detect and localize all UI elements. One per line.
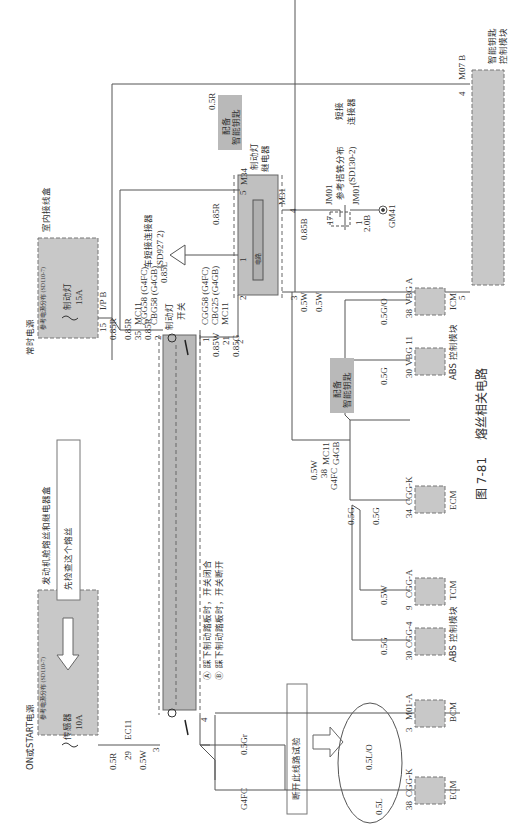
engine-box-label: 发动机舱熔丝和继电器盒 xyxy=(42,486,51,585)
constant-power-ref: 参考电源分布 (SD110-7) xyxy=(40,267,46,330)
wire-0.85g: 0.85G xyxy=(232,335,241,357)
wire-2.0b: 2.0B xyxy=(363,215,372,232)
load-0-pin: 38 xyxy=(405,309,414,318)
option-badge-1-line2: 智能钥匙 xyxy=(232,109,241,145)
wire-0.5l-o: 0.5L/O xyxy=(365,744,374,770)
note-a: Ⓐ 踩下制动踏板时，开关闭合 xyxy=(203,560,212,680)
option-badge-1-line1: 配备 xyxy=(222,117,231,135)
constant-power-label: 常时电源 xyxy=(26,319,35,355)
load-1-module: ABS 控制模块 xyxy=(449,324,458,380)
wire-0.5g-abs: 0.5G xyxy=(380,637,389,655)
load-4-pin: 30 xyxy=(405,651,414,660)
pin-switch-4: 4 xyxy=(200,718,209,723)
ground-dist-ref: (SD130-2) xyxy=(348,147,357,186)
pin-mc11-38: 38 xyxy=(320,469,329,478)
pin-relay-3: 3 xyxy=(290,296,299,301)
module-tcm xyxy=(415,578,445,605)
connector-cgg58-b-3: MC11 xyxy=(221,302,230,325)
module-icm xyxy=(415,288,445,315)
smart-key-module xyxy=(158,70,190,210)
fuse-brake-name: 制动灯 xyxy=(63,283,72,310)
load-4-module: ABS 控制模块 xyxy=(449,606,458,662)
ground-type-2: 连接器 xyxy=(347,98,356,125)
pin-cgg58-b-1: 1 xyxy=(202,338,211,343)
wire-0.85w: 0.85W xyxy=(212,333,221,357)
wire-0.5g-o: 0.5G/O xyxy=(380,298,389,325)
wire-0.5w-1: 0.5W xyxy=(300,292,309,312)
module-abs-1 xyxy=(415,348,445,375)
brake-switch-label-2: 开关 xyxy=(177,302,186,320)
load-5-connector: M01-A xyxy=(405,694,414,721)
wire-0.85r-1: 0.85R xyxy=(109,318,118,340)
load-6-connector: CGG-K xyxy=(405,769,414,798)
connector-m34: M34 xyxy=(240,168,249,185)
ground-dist-label: 参考搭铁分布 xyxy=(336,146,345,200)
wire-0.5g-b: 0.5G xyxy=(372,507,381,525)
load-1-pin: 30 xyxy=(405,369,414,378)
pin-m34-2: 2 xyxy=(239,296,248,301)
pin-switch-3: 3 xyxy=(152,748,161,753)
fuse-icon xyxy=(62,743,78,747)
brake-switch-label-1: 制动灯 xyxy=(165,303,174,330)
module-bcm xyxy=(415,700,445,727)
wire-0.5g-vbg: 0.5G xyxy=(380,367,389,385)
wire-0.5w-2: 0.5W xyxy=(315,292,324,312)
wire-0.5gr: 0.5Gr xyxy=(240,734,249,755)
option-badge-2-line1: 配备 xyxy=(333,380,342,398)
smart-key-module-line1: 智能钥匙 xyxy=(488,28,497,64)
short-connector-triangle-icon xyxy=(170,245,185,265)
wire-0.85l: 0.85L xyxy=(160,262,169,283)
wire-0.5r-ec: 0.5R xyxy=(109,753,118,770)
load-4-connector: CGG-4 xyxy=(405,622,414,649)
pin-m07b-5: 5 xyxy=(458,296,467,301)
brake-relay-label-1: 制动灯 xyxy=(250,143,259,170)
load-3-pin: 9 xyxy=(405,606,414,611)
connector-cgg58-b-2: CBG25 (G4GB) xyxy=(211,266,220,325)
smart-key-module-line2: 控制模块 xyxy=(499,28,508,64)
load-2-connector: CGG-K xyxy=(405,477,414,506)
module-ecm-2 xyxy=(415,777,445,804)
variant-g4fc: G4FC xyxy=(330,468,339,490)
wire-0.5l: 0.5L xyxy=(375,798,384,815)
connector-m31: M31 xyxy=(278,188,287,205)
load-3-connector: CGG-A xyxy=(405,570,414,599)
load-2-pin: 34 xyxy=(405,509,414,518)
connector-ip-b: I/P B xyxy=(99,292,108,310)
load-5-pin: 3 xyxy=(405,728,414,733)
pin-m07b-4: 4 xyxy=(458,92,467,97)
connector-jm01-b: JM01 xyxy=(352,184,361,205)
pin-cgg58-b-2: 2 xyxy=(236,340,245,345)
fuse-sensor-rating: 10A xyxy=(75,715,84,731)
pin-m34-5: 5 xyxy=(239,191,248,196)
pin-ip-b: 15 xyxy=(99,323,108,332)
smart-key-control-module xyxy=(472,70,504,285)
pin-cgg58-a: 2 xyxy=(154,336,163,341)
wire-0.5w-tcm: 0.5W xyxy=(380,585,389,605)
pin-ec11: 29 xyxy=(124,751,133,760)
connector-jm01-a: JM01 xyxy=(325,184,334,205)
connector-ec11: EC11 xyxy=(124,720,133,740)
load-5-module: BCM xyxy=(449,702,458,722)
pin-m31: 4 xyxy=(289,209,298,214)
relay-inner-label: 电路 xyxy=(255,253,261,265)
pin-cgg58-b-21: 21 xyxy=(222,336,231,345)
module-abs-2 xyxy=(415,628,445,655)
brake-switch-bar xyxy=(163,335,196,710)
load-6-pin: 38 xyxy=(405,801,414,810)
pin-jm01-a: 17 xyxy=(326,216,335,225)
connector-cgg58-b-1: CGG58 (G4FC) xyxy=(201,267,210,325)
module-ecm-1 xyxy=(415,486,445,513)
interior-box-label: 室内接线盒 xyxy=(42,187,51,232)
load-0-module: ICM xyxy=(449,293,458,310)
load-3-module: TCM xyxy=(449,580,458,600)
wire-0.85r-top: 0.85R xyxy=(212,203,221,225)
load-1-connector: VBG 11 xyxy=(405,336,414,366)
brake-relay-label-2: 继电器 xyxy=(261,145,270,172)
connector-cgg58-a-1: CGG58 (G4FC) xyxy=(140,267,149,325)
wire-0.5w-3: 0.5W xyxy=(310,460,319,480)
figure-title: 熔丝相关电路 xyxy=(476,368,488,440)
check-fuse-note: 先检查这个熔丝 xyxy=(64,527,73,590)
connector-mc11-g4gb-1: MC11 xyxy=(322,442,331,465)
fuse-sensor-name: 传感器 xyxy=(63,713,72,740)
option-badge-2-line2: 智能钥匙 xyxy=(343,372,352,408)
